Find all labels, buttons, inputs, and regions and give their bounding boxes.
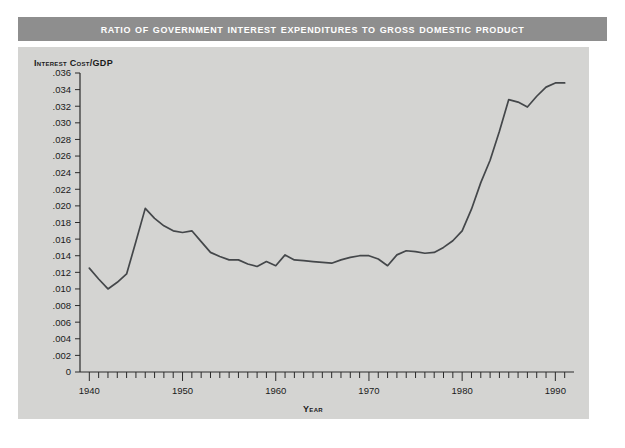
x-axis: 194019501960197019801990	[79, 372, 574, 396]
x-tick-label: 1990	[545, 385, 566, 396]
y-tick-label: .036	[53, 67, 72, 78]
y-tick-label: .024	[53, 167, 72, 178]
y-tick-label: .016	[53, 234, 72, 245]
x-tick-label: 1970	[358, 385, 379, 396]
y-tick-label: .010	[53, 283, 72, 294]
chart-panel: 0.002.004.006.008.010.012.014.016.018.02…	[18, 47, 589, 419]
y-tick-label: .022	[53, 184, 72, 195]
y-tick-label: .034	[53, 84, 72, 95]
y-tick-label: .012	[53, 267, 72, 278]
y-tick-label: .004	[53, 333, 72, 344]
data-series-line	[89, 83, 564, 289]
line-chart: 0.002.004.006.008.010.012.014.016.018.02…	[18, 47, 589, 419]
y-tick-label: .008	[53, 300, 72, 311]
figure-root: Ratio of Government Interest Expenditure…	[0, 0, 625, 448]
y-axis: 0.002.004.006.008.010.012.014.016.018.02…	[53, 67, 81, 377]
page-title: Ratio of Government Interest Expenditure…	[101, 22, 525, 36]
chart-title-bar: Ratio of Government Interest Expenditure…	[18, 17, 607, 41]
y-tick-label: .018	[53, 217, 72, 228]
x-tick-label: 1960	[265, 385, 286, 396]
y-tick-label: .006	[53, 317, 72, 328]
y-tick-label: .014	[53, 250, 72, 261]
x-tick-label: 1950	[172, 385, 193, 396]
y-tick-label: .020	[53, 200, 72, 211]
x-tick-label: 1980	[452, 385, 473, 396]
y-tick-label: .026	[53, 150, 72, 161]
y-tick-label: .028	[53, 134, 72, 145]
y-tick-label: .032	[53, 101, 72, 112]
y-tick-label: .030	[53, 117, 72, 128]
y-tick-label: .002	[53, 350, 72, 361]
y-tick-label: 0	[66, 366, 71, 377]
y-axis-title: Interest Cost/GDP	[34, 58, 113, 68]
x-axis-title: Year	[303, 404, 323, 414]
x-tick-label: 1940	[79, 385, 100, 396]
